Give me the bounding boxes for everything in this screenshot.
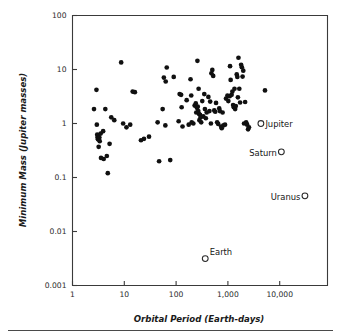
point-label-jupiter: Jupiter bbox=[264, 119, 293, 129]
data-point-exoplanet bbox=[210, 68, 215, 73]
data-point-exoplanet bbox=[163, 79, 168, 84]
data-point-exoplanet bbox=[236, 95, 241, 100]
y-tick-label: 10 bbox=[57, 65, 67, 74]
data-point-exoplanet bbox=[94, 87, 99, 92]
data-point-exoplanet bbox=[179, 105, 184, 110]
data-point-exoplanet bbox=[160, 107, 165, 112]
data-point-exoplanet bbox=[202, 92, 207, 97]
data-point-exoplanet bbox=[235, 75, 240, 80]
x-axis-title: Orbital Period (Earth-days) bbox=[134, 314, 265, 324]
data-point-exoplanet bbox=[119, 60, 124, 65]
data-point-exoplanet bbox=[195, 104, 200, 109]
data-point-jupiter bbox=[258, 121, 264, 127]
x-tick-label: 1 bbox=[70, 290, 75, 299]
data-point-exoplanet bbox=[97, 139, 102, 144]
data-point-exoplanet bbox=[211, 74, 216, 79]
data-point-exoplanet bbox=[133, 90, 138, 95]
data-point-exoplanet bbox=[92, 107, 97, 112]
data-point-saturn bbox=[278, 149, 284, 155]
y-tick-label: 0.01 bbox=[50, 227, 67, 236]
data-point-exoplanet bbox=[176, 119, 181, 124]
data-point-exoplanet bbox=[142, 136, 147, 141]
data-point-exoplanet bbox=[179, 92, 184, 97]
data-point-exoplanet bbox=[157, 159, 162, 164]
point-label-uranus: Uranus bbox=[271, 192, 301, 202]
data-point-exoplanet bbox=[207, 109, 212, 114]
x-tick-label: 10 bbox=[119, 290, 129, 299]
data-point-exoplanet bbox=[209, 121, 214, 126]
data-point-exoplanet bbox=[104, 154, 109, 159]
data-point-exoplanet bbox=[188, 77, 193, 82]
x-tick-label: 10,000 bbox=[266, 290, 293, 299]
y-tick-label: 1 bbox=[62, 119, 67, 128]
data-point-exoplanet bbox=[168, 158, 173, 163]
data-point-exoplanet bbox=[171, 75, 176, 80]
data-point-exoplanet bbox=[228, 78, 233, 83]
data-point-exoplanet bbox=[163, 123, 168, 128]
data-point-exoplanet bbox=[105, 171, 110, 176]
point-label-earth: Earth bbox=[210, 247, 232, 257]
data-point-exoplanet bbox=[240, 74, 245, 79]
data-point-exoplanet bbox=[180, 124, 185, 129]
exoplanet-scatter-figure: 1101001,00010,000 1001010.10.010.001 Jup… bbox=[0, 0, 341, 335]
y-axis-title: Minimum Mass (Jupiter masses) bbox=[18, 73, 28, 228]
data-point-exoplanet bbox=[191, 121, 196, 126]
data-point-exoplanet bbox=[236, 55, 241, 60]
y-tick-label: 0.1 bbox=[54, 173, 66, 182]
data-point-exoplanet bbox=[226, 99, 231, 104]
data-point-exoplanet bbox=[220, 110, 225, 115]
point-label-saturn: Saturn bbox=[249, 148, 277, 158]
data-point-exoplanet bbox=[107, 141, 112, 146]
data-point-exoplanet bbox=[238, 100, 243, 105]
data-point-exoplanet bbox=[241, 68, 246, 73]
data-point-exoplanet bbox=[103, 107, 108, 112]
data-point-exoplanet bbox=[247, 125, 252, 130]
y-tick-label: 0.001 bbox=[45, 281, 67, 290]
data-point-exoplanet bbox=[189, 93, 194, 98]
data-point-exoplanet bbox=[101, 129, 106, 134]
data-point-exoplanet bbox=[164, 65, 169, 70]
data-point-exoplanet bbox=[243, 100, 248, 105]
data-point-exoplanet bbox=[208, 99, 213, 104]
data-point-exoplanet bbox=[237, 86, 242, 91]
x-tick-label: 1,000 bbox=[217, 290, 239, 299]
data-point-exoplanet bbox=[214, 101, 219, 106]
data-point-exoplanet bbox=[94, 122, 99, 127]
data-point-exoplanet bbox=[196, 86, 201, 91]
data-point-exoplanet bbox=[232, 86, 237, 91]
data-point-exoplanet bbox=[233, 104, 238, 109]
data-point-exoplanet bbox=[155, 120, 160, 125]
data-point-exoplanet bbox=[184, 98, 189, 103]
data-point-exoplanet bbox=[263, 88, 268, 93]
x-tick-label: 100 bbox=[169, 290, 184, 299]
data-point-exoplanet bbox=[213, 109, 218, 114]
data-point-exoplanet bbox=[228, 64, 233, 69]
data-point-exoplanet bbox=[121, 121, 126, 126]
data-point-exoplanet bbox=[206, 95, 211, 100]
data-point-exoplanet bbox=[128, 122, 133, 127]
scatter-plot-canvas: 1101001,00010,000 1001010.10.010.001 Jup… bbox=[0, 0, 341, 335]
data-point-exoplanet bbox=[199, 120, 204, 125]
data-point-exoplanet bbox=[112, 118, 117, 123]
data-point-exoplanet bbox=[203, 116, 208, 121]
data-point-exoplanet bbox=[200, 99, 205, 104]
data-point-exoplanet bbox=[195, 58, 200, 63]
data-point-exoplanet bbox=[223, 122, 228, 127]
y-tick-label: 100 bbox=[52, 11, 67, 20]
data-point-earth bbox=[202, 256, 208, 262]
data-point-exoplanet bbox=[96, 144, 101, 149]
data-point-uranus bbox=[302, 193, 308, 199]
data-point-exoplanet bbox=[147, 134, 152, 139]
